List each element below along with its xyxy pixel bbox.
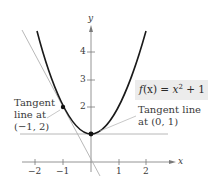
function-arg: (x) xyxy=(143,83,157,95)
x-tick-neg2: −2 xyxy=(28,166,41,176)
equals-sign: = xyxy=(157,83,172,95)
point-0-1 xyxy=(89,132,94,137)
function-label: f(x) = x2 + 1 xyxy=(139,83,205,95)
y-tick-3: 3 xyxy=(80,74,86,84)
right-annotation-line2: at (0, 1) xyxy=(138,116,178,127)
left-annotation-line1: Tangent xyxy=(14,97,55,108)
x-tick-1: 1 xyxy=(116,166,122,176)
point-neg1-2 xyxy=(61,105,65,109)
x-axis-arrow-icon xyxy=(169,160,176,164)
right-annotation-line1: Tangent line xyxy=(138,104,201,115)
y-tick-4: 4 xyxy=(80,46,86,56)
left-annotation-line3: (−1, 2) xyxy=(14,121,49,132)
y-tick-2: 2 xyxy=(80,101,86,111)
y-axis-label: y xyxy=(88,13,93,23)
left-annotation-line2: line at xyxy=(14,109,46,120)
constant-term: + 1 xyxy=(183,83,205,95)
x-tick-neg1: −1 xyxy=(56,166,69,176)
y-axis xyxy=(87,25,95,172)
x-axis-label: x xyxy=(178,156,183,166)
x-axis xyxy=(22,159,176,165)
left-leader-line xyxy=(47,110,60,118)
y-axis-arrow-icon xyxy=(89,25,93,32)
x-tick-2: 2 xyxy=(143,166,149,176)
right-leader-line xyxy=(100,116,136,131)
